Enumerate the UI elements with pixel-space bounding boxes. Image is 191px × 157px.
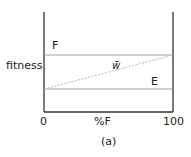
f-label: F <box>52 40 58 52</box>
chart-plot <box>0 0 191 157</box>
y-axis-label: fitness <box>6 60 42 72</box>
e-label: E <box>151 76 158 88</box>
wbar-label: w̄ <box>112 60 120 72</box>
x-tick-max: 100 <box>163 116 184 128</box>
x-tick-min: 0 <box>40 116 47 128</box>
x-axis-label: %F <box>94 116 111 128</box>
caption: (a) <box>101 136 116 148</box>
